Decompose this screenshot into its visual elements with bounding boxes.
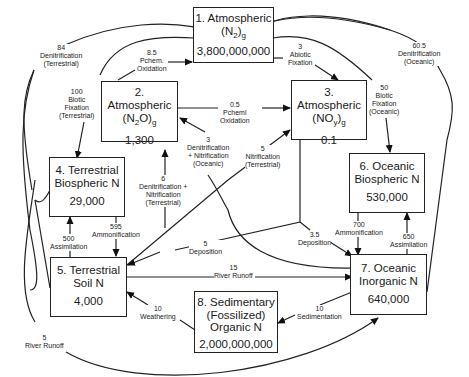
box-title: 2. Atmospheric	[102, 86, 177, 112]
box-title: 6. Oceanic	[350, 160, 424, 173]
label-ammon-ocean: 700Ammonification	[335, 221, 383, 237]
label-deposition-terr: 5Deposition	[189, 240, 222, 256]
label-river-runoff-5: 5River Runoff	[25, 334, 64, 350]
box-title: 8. Sedimentary	[195, 296, 277, 309]
box-value: 530,000	[350, 191, 424, 204]
box-value: 29,000	[50, 195, 124, 208]
label-ammon-terr: 595Ammonification	[92, 223, 140, 239]
box-value: 640,000	[351, 293, 426, 306]
box-title: 1. Atmospheric	[194, 12, 273, 25]
label-assim-ocean: 650Assimilation	[390, 233, 427, 249]
label-nit-terr: 5Nitrification(Terrestrial)	[245, 145, 280, 169]
box-value: 0.1	[292, 134, 366, 147]
box-atmospheric-n2: 1. Atmospheric (N2)g 3,800,000,000	[193, 7, 274, 63]
box-value: 3,800,000,000	[194, 45, 273, 58]
label-river-runoff-15: 15River Runoff	[214, 264, 253, 280]
box-value: 2,000,000,000	[195, 338, 277, 351]
label-denit-terr: 84Denitrification(Terrestrial)	[40, 44, 82, 68]
box-atmospheric-noy: 3. Atmospheric (NOy)g 0.1	[291, 80, 367, 140]
label-assim-terr: 500Assimilation	[50, 235, 87, 251]
box-terrestrial-biospheric: 4. Terrestrial Biospheric N 29,000	[49, 157, 125, 217]
label-denit-ocean: 60.5Denitrification(Oceanic)	[398, 42, 440, 66]
box-value: 1,300	[102, 134, 177, 147]
label-biotic-fix-terr: 100BioticFixation(Terrestrial)	[59, 88, 94, 120]
label-sedimentation: 10Sedimentation	[297, 305, 342, 321]
label-abiotic-fix: 3AbioticFixation	[288, 43, 313, 67]
label-deposition-ocean: 3.5Deposition	[298, 231, 331, 247]
box-atmospheric-n2o: 2. Atmospheric (N2O)g 1,300	[101, 81, 178, 142]
box-title: 4. Terrestrial	[50, 164, 124, 177]
box-value: 4,000	[51, 295, 126, 308]
label-weathering: 10Weathering	[140, 305, 176, 321]
box-terrestrial-soil: 5. Terrestrial Soil N 4,000	[50, 257, 127, 317]
box-title: 7. Oceanic	[351, 262, 426, 275]
label-denit-nit-terr: 6Denitrification +Nitrification(Terrestr…	[139, 175, 187, 207]
label-denit-nit-ocean: 3Denitrification+ Nitrification(Oceanic)	[187, 136, 229, 168]
box-title: 3. Atmospheric	[292, 86, 366, 112]
label-pchem-ox-2: 0.5PchemlOxidation	[220, 101, 250, 125]
label-pchem-ox-1: 8.5Pchem.Oxidation	[137, 49, 167, 73]
box-title: 5. Terrestrial	[51, 264, 126, 277]
box-sedimentary-organic: 8. Sedimentary (Fossilized) Organic N 2,…	[194, 291, 278, 353]
label-biotic-fix-ocean: 50BioticFixation(Oceanic)	[369, 84, 399, 116]
box-oceanic-biospheric: 6. Oceanic Biospheric N 530,000	[349, 153, 425, 213]
box-oceanic-inorganic: 7. Oceanic Inorganic N 640,000	[350, 254, 427, 315]
